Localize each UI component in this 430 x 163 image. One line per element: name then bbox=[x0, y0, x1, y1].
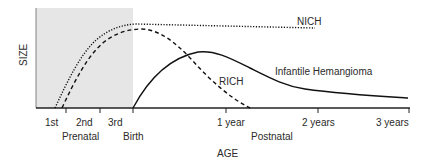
x-ticks bbox=[66, 108, 409, 113]
prenatal-shaded-region bbox=[36, 8, 133, 108]
group-label-postnatal: Postnatal bbox=[251, 131, 293, 142]
tick-label-2nd: 2nd bbox=[76, 117, 93, 128]
tick-label-1st: 1st bbox=[45, 117, 59, 128]
infantile-hemangioma-label: Infantile Hemangioma bbox=[275, 66, 373, 77]
tick-label-birth: Birth bbox=[123, 131, 144, 142]
tick-label-3rd: 3rd bbox=[108, 117, 122, 128]
tick-label-3-years: 3 years bbox=[376, 117, 409, 128]
tick-label-1-year: 1 year bbox=[217, 117, 245, 128]
rich-label: RICH bbox=[219, 76, 243, 87]
hemangioma-growth-diagram: NICH RICH Infantile Hemangioma SIZE AGE … bbox=[0, 0, 430, 163]
tick-label-2-years: 2 years bbox=[302, 117, 335, 128]
x-axis-label: AGE bbox=[217, 148, 238, 159]
infantile-hemangioma-curve bbox=[133, 52, 408, 108]
y-axis-label: SIZE bbox=[18, 43, 29, 66]
group-label-prenatal: Prenatal bbox=[62, 131, 99, 142]
nich-label: NICH bbox=[297, 16, 321, 27]
